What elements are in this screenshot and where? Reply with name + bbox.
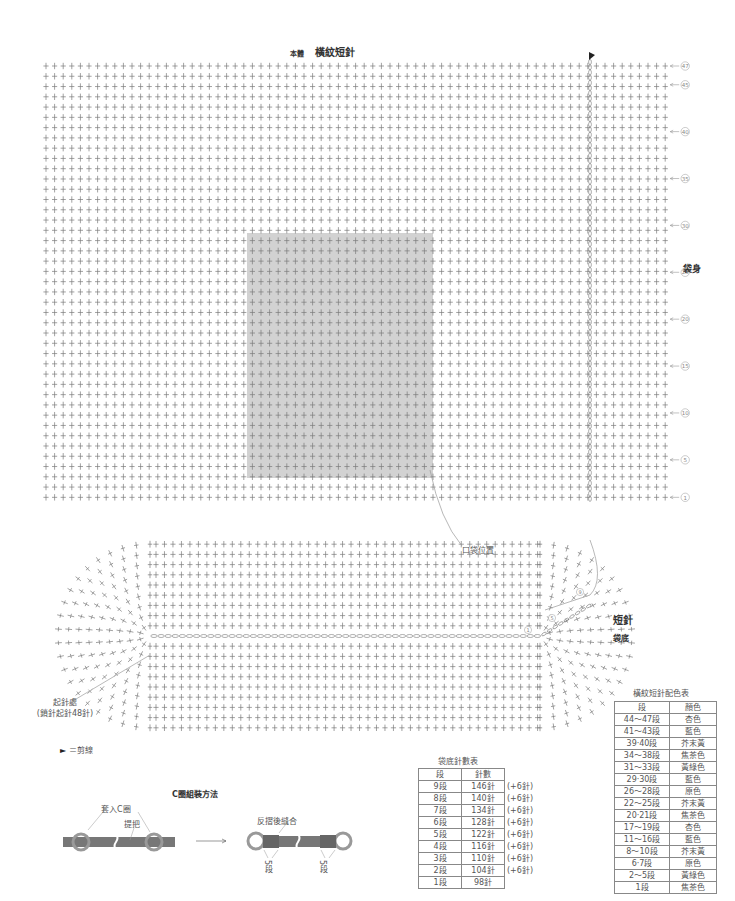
start-note: 起針處 (鎖針起針48針) — [10, 696, 120, 718]
cell-rows: 41～43段 — [615, 726, 670, 738]
color-table-title: 橫紋短針配色表 — [633, 687, 689, 698]
ring-label: 套入C圈 — [101, 803, 131, 814]
c-ring-assembly-diagram — [63, 812, 351, 858]
header-color: 顏色 — [670, 702, 717, 714]
base-stitch-chart: 159 — [55, 541, 635, 731]
cell-rows: 26～28段 — [615, 786, 670, 798]
cell-color: 杏色 — [670, 714, 717, 726]
cell-rows: 6‧7段 — [615, 858, 670, 870]
round-marker-label: 9 — [578, 589, 581, 595]
slip-stitch-column — [589, 59, 592, 501]
cell-color: 藍色 — [670, 774, 717, 786]
cell-count: 116針 — [462, 841, 505, 853]
cut-symbol-icon: ► — [60, 746, 66, 755]
handle-label: 提把 — [124, 818, 140, 829]
chart-title: 本體 橫紋短針 — [290, 44, 355, 59]
row-marker-label: 10 — [682, 410, 689, 416]
cell-color: 芥末黃 — [670, 738, 717, 750]
base-stitch-table: 段 針數 9段146針(+6針)8段140針(+6針)7段134針(+6針)6段… — [418, 768, 537, 889]
cell-count: 128針 — [462, 817, 505, 829]
color-table: 段 顏色 44～47段杏色41～43段藍色39‧40段芥末黃34～38段焦茶色3… — [614, 701, 717, 894]
cell-round: 8段 — [419, 793, 462, 805]
table-row: 6段128針(+6針) — [419, 817, 537, 829]
row-marker-label: 15 — [682, 363, 689, 369]
pocket-position-area — [247, 233, 433, 478]
cell-inc: (+6針) — [505, 805, 537, 817]
cell-count: 104針 — [462, 865, 505, 877]
cell-count: 140針 — [462, 793, 505, 805]
cell-color: 原色 — [670, 786, 717, 798]
cell-rows: 11～16段 — [615, 834, 670, 846]
cell-color: 芥末黃 — [670, 798, 717, 810]
row-marker-label: 20 — [682, 316, 689, 322]
fold-sew-label: 反摺後縫合 — [257, 815, 297, 826]
part-label: 本體 — [290, 50, 304, 58]
cell-color: 芥末黃 — [670, 846, 717, 858]
cell-count: 122針 — [462, 829, 505, 841]
table-row: 1段98針 — [419, 877, 537, 889]
rows-right-label: 5段 — [317, 860, 327, 873]
row-marker-label: 45 — [682, 82, 689, 88]
cell-count: 146針 — [462, 781, 505, 793]
cell-color: 黃綠色 — [670, 762, 717, 774]
header-count: 針數 — [462, 769, 505, 781]
cell-inc — [505, 877, 537, 889]
cell-color: 焦茶色 — [670, 882, 717, 894]
body-section-label: 袋身 — [683, 262, 701, 275]
row-marker-label: 30 — [682, 223, 689, 229]
table-row: 11～16段藍色 — [615, 834, 717, 846]
table-row: 5段122針(+6針) — [419, 829, 537, 841]
row-marker-label: 1 — [683, 495, 687, 501]
c-ring-icon — [335, 833, 351, 849]
table-row: 41～43段藍色 — [615, 726, 717, 738]
base-stitch-label: 短針 — [613, 612, 633, 627]
cell-round: 3段 — [419, 853, 462, 865]
c-ring-icon — [248, 833, 264, 849]
cut-legend: ► ＝剪線 — [60, 744, 93, 755]
header-rows: 段 — [615, 702, 670, 714]
cell-color: 杏色 — [670, 822, 717, 834]
cell-rows: 44～47段 — [615, 714, 670, 726]
table-row: 7段134針(+6針) — [419, 805, 537, 817]
cell-color: 焦茶色 — [670, 750, 717, 762]
table-row: 9段146針(+6針) — [419, 781, 537, 793]
table-row: 29‧30段藍色 — [615, 774, 717, 786]
assembly-title: C圈組裝方法 — [172, 788, 218, 799]
cell-rows: 31～33段 — [615, 762, 670, 774]
cell-rows: 22～25段 — [615, 798, 670, 810]
leader-lines — [66, 470, 598, 705]
table-row: 26～28段原色 — [615, 786, 717, 798]
table-row: 1段焦茶色 — [615, 882, 717, 894]
cell-inc: (+6針) — [505, 853, 537, 865]
cell-inc: (+6針) — [505, 829, 537, 841]
pocket-area — [247, 233, 433, 478]
row-marker-label: 47 — [682, 63, 689, 69]
round-marker-label: 5 — [550, 615, 553, 621]
cell-rows: 29‧30段 — [615, 774, 670, 786]
table-header-row: 段 針數 — [419, 769, 537, 781]
cell-rows: 20‧21段 — [615, 810, 670, 822]
cell-color: 焦茶色 — [670, 810, 717, 822]
table-row: 31～33段黃綠色 — [615, 762, 717, 774]
cell-count: 98針 — [462, 877, 505, 889]
table-row: 34～38段焦茶色 — [615, 750, 717, 762]
table-row: 3段110針(+6針) — [419, 853, 537, 865]
table-header-row: 段 顏色 — [615, 702, 717, 714]
cell-rows: 39‧40段 — [615, 738, 670, 750]
cell-inc: (+6針) — [505, 865, 537, 877]
stitch-title: 橫紋短針 — [315, 47, 355, 58]
cell-color: 黃綠色 — [670, 870, 717, 882]
table-row: 8段140針(+6針) — [419, 793, 537, 805]
cell-round: 9段 — [419, 781, 462, 793]
cell-rows: 8～10段 — [615, 846, 670, 858]
cell-round: 5段 — [419, 829, 462, 841]
header-round: 段 — [419, 769, 462, 781]
cell-inc: (+6針) — [505, 793, 537, 805]
table-row: 20‧21段焦茶色 — [615, 810, 717, 822]
cell-color: 原色 — [670, 858, 717, 870]
cell-rows: 2～5段 — [615, 870, 670, 882]
row-marker-label: 35 — [682, 176, 689, 182]
round-marker-label: 1 — [526, 627, 529, 633]
row-marker-label: 40 — [682, 129, 689, 135]
cell-rows: 1段 — [615, 882, 670, 894]
